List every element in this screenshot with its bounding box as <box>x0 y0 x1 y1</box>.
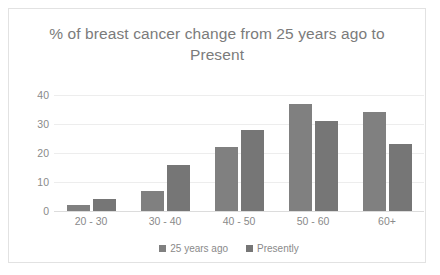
legend-swatch-icon <box>246 245 253 252</box>
chart-title: % of breast cancer change from 25 years … <box>27 23 407 65</box>
bar-groups <box>54 95 424 211</box>
bar[interactable] <box>93 199 116 211</box>
bar-group <box>276 95 350 211</box>
bar-group <box>128 95 202 211</box>
bar[interactable] <box>141 191 164 211</box>
x-axis-tick-label: 40 - 50 <box>202 215 276 227</box>
bar-group <box>54 95 128 211</box>
bar[interactable] <box>363 112 386 211</box>
legend-item[interactable]: Presently <box>246 243 299 254</box>
legend-swatch-icon <box>159 245 166 252</box>
legend-item-label: Presently <box>257 243 299 254</box>
y-axis-tick-label: 10 <box>37 176 49 188</box>
y-axis-tick-label: 0 <box>43 205 49 217</box>
legend-item-label: 25 years ago <box>170 243 228 254</box>
bar[interactable] <box>389 144 412 211</box>
bar[interactable] <box>315 121 338 211</box>
legend-item[interactable]: 25 years ago <box>159 243 228 254</box>
y-axis-tick-label: 30 <box>37 118 49 130</box>
chart-legend: 25 years agoPresently <box>9 243 440 254</box>
bar[interactable] <box>241 130 264 211</box>
bar[interactable] <box>289 104 312 211</box>
x-axis-tick-label: 60+ <box>350 215 424 227</box>
bar[interactable] <box>67 205 90 211</box>
x-axis-tick-label: 30 - 40 <box>128 215 202 227</box>
y-axis-labels: 010203040 <box>27 95 49 211</box>
bar[interactable] <box>167 165 190 211</box>
x-axis-tick-label: 20 - 30 <box>54 215 128 227</box>
y-axis-tick-label: 40 <box>37 89 49 101</box>
axis-baseline <box>54 211 424 212</box>
bar[interactable] <box>215 147 238 211</box>
chart-container: % of breast cancer change from 25 years … <box>8 8 426 263</box>
y-axis-tick-label: 20 <box>37 147 49 159</box>
bar-group <box>202 95 276 211</box>
x-axis-tick-label: 50 - 60 <box>276 215 350 227</box>
bar-group <box>350 95 424 211</box>
x-axis-labels: 20 - 3030 - 4040 - 5050 - 6060+ <box>54 215 424 227</box>
